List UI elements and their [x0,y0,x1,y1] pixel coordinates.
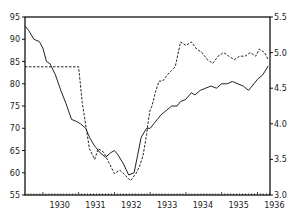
left-tick-label: 65 [10,147,20,156]
left-tick-label: 85 [10,58,20,67]
x-tick-label: 1931 [85,201,105,210]
right-tick-label: 5.5 [274,13,287,22]
left-tick-label: 95 [10,13,20,22]
x-tick-label: 1932 [121,201,141,210]
right-tick-label: 5.0 [274,49,287,58]
right-tick-label: 4.0 [274,120,287,129]
solid-series-line [25,26,268,175]
chart: 5560657075808590953.03.54.04.55.05.51930… [0,0,295,218]
right-tick-label: 3.0 [274,191,287,200]
x-tick-label: 1934 [193,201,213,210]
left-tick-label: 70 [10,124,20,133]
x-tick-label: 1936 [264,201,284,210]
line-chart: 5560657075808590953.03.54.04.55.05.51930… [0,0,295,218]
plot-frame [25,17,270,195]
axes: 5560657075808590953.03.54.04.55.05.51930… [10,13,287,210]
left-tick-label: 90 [10,35,20,44]
dashed-series-line [25,42,268,181]
x-tick-label: 1933 [157,201,177,210]
x-tick-label: 1935 [228,201,248,210]
left-tick-label: 55 [10,191,20,200]
left-tick-label: 60 [10,169,20,178]
right-tick-label: 4.5 [274,84,287,93]
left-tick-label: 75 [10,102,20,111]
x-tick-label: 1930 [50,201,70,210]
series-group [25,26,268,181]
left-tick-label: 80 [10,80,20,89]
right-tick-label: 3.5 [274,155,287,164]
